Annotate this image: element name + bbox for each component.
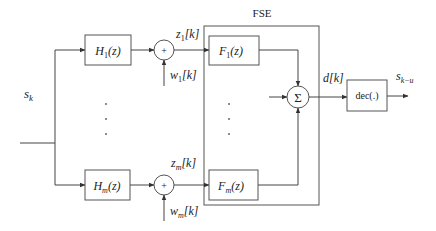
noise-m-label: wm[k]: [170, 204, 199, 220]
signal-1-label: z1[k]: [175, 27, 200, 43]
svg-text:sk: sk: [24, 86, 34, 103]
signal-m-label: zm[k]: [170, 156, 196, 172]
h1-label: H1(z): [94, 44, 120, 60]
summer-sigma: Σ: [294, 90, 302, 105]
output-label: sk−u: [396, 69, 414, 85]
adder-m-plus: +: [161, 180, 167, 191]
f1-label: F1(z): [218, 44, 243, 60]
fse-block-diagram: FSE sk H1(z) + w1[k] z1[k] F1(z) Σ d[k] …: [0, 0, 436, 231]
decision-label: dec(.): [355, 90, 378, 102]
noise-1-label: w1[k]: [170, 68, 197, 84]
branch-ellipsis-right: [228, 103, 230, 135]
input-label: sk: [24, 86, 34, 103]
summer-output-label: d[k]: [323, 71, 344, 85]
fm-label: Fm(z): [217, 179, 244, 195]
branch-ellipsis-left: [105, 103, 107, 135]
fse-title: FSE: [253, 7, 272, 19]
arrow-fm-to-sum: [258, 108, 298, 185]
arrow-f1-to-sum: [259, 50, 298, 86]
adder-1-plus: +: [161, 45, 167, 56]
